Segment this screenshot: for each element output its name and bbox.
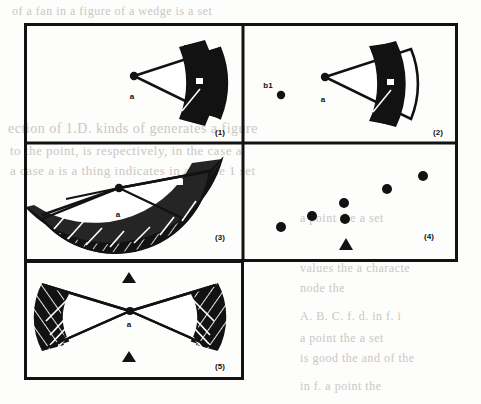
panel-5-wedge-right xyxy=(130,283,226,351)
panel-4-dot xyxy=(276,222,286,232)
panel-3-apex-marker xyxy=(115,184,123,192)
panel-4: (4) xyxy=(276,171,434,250)
panel-3-caption: (3) xyxy=(215,233,225,242)
panel-1-caption: (1) xyxy=(215,128,225,137)
figure-diagram: a (1) a b1 (2) xyxy=(24,23,458,380)
panel-4-dot xyxy=(382,184,392,194)
panel-1-wedge xyxy=(134,40,227,126)
panel-4-dot xyxy=(339,198,349,208)
panel-5-wedge-left xyxy=(34,283,130,351)
panel-3-wedge xyxy=(26,159,222,253)
panel-2-caption: (2) xyxy=(433,128,443,137)
figure-page: { "figure": { "caption_labels": ["(1)", … xyxy=(0,0,481,404)
panel-4-dot xyxy=(418,171,428,181)
panel-5-triangle-top xyxy=(122,272,136,283)
panel-4-triangle xyxy=(339,238,353,250)
panel-5-caption: (5) xyxy=(215,362,225,371)
panel-1-point-label-a: a xyxy=(130,92,135,101)
ghost-line: of a fan in a figure of a wedge is a set xyxy=(12,4,212,19)
ghost-line: in f. a point the xyxy=(300,379,381,394)
panel-4-dot xyxy=(307,211,317,221)
panel-5-triangle-bottom xyxy=(122,351,136,362)
panel-2-point-label-a: a xyxy=(321,95,326,104)
panel-4-dot xyxy=(340,214,350,224)
panel-5-apex-marker xyxy=(126,307,134,315)
panel-2: a b1 (2) xyxy=(263,41,443,137)
panel-4-caption: (4) xyxy=(424,232,434,241)
panel-1: a (1) xyxy=(130,40,227,137)
figure-svg: a (1) a b1 (2) xyxy=(24,23,458,380)
panel-2-wedge xyxy=(325,41,418,127)
panel-5: a (5) xyxy=(34,272,227,371)
panel-2-apex-marker xyxy=(321,73,329,81)
panel-1-apex-marker xyxy=(130,72,138,80)
panel-3: a (3) xyxy=(26,159,225,253)
panel-3-point-label-a: a xyxy=(116,210,121,219)
panel-2-point-label-b1: b1 xyxy=(263,81,273,90)
panel-5-point-label-a: a xyxy=(127,320,132,329)
panel-2-point-marker-b1 xyxy=(277,91,285,99)
